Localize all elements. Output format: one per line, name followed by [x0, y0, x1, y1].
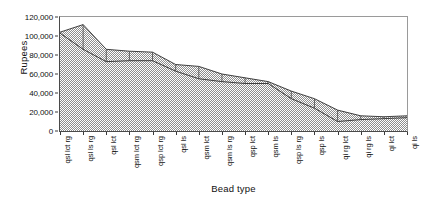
x-axis-category-label: qi ls: [410, 136, 419, 149]
y-axis-tick-label: 80,000: [29, 51, 53, 60]
x-axis-tick-mark: [245, 132, 246, 135]
band-fill-region: [60, 25, 407, 131]
x-axis-category-label: qi rg lct: [341, 136, 350, 160]
x-axis-category-label: qsl ls: [179, 136, 188, 153]
x-axis-category-label: qsp lct rg: [156, 136, 165, 166]
y-axis-tick-label: 60,000: [29, 70, 53, 79]
y-axis-tick-mark: [55, 17, 58, 18]
y-axis-tick-mark: [55, 131, 58, 132]
y-axis-tick-label: 20,000: [29, 108, 53, 117]
x-axis-tick-mark: [268, 132, 269, 135]
x-axis-category-label: qi lct: [387, 136, 396, 151]
x-axis-tick-mark: [222, 132, 223, 135]
x-axis-category-label: qsm lct rg: [132, 136, 141, 168]
x-axis-category-label: qsm ls rg: [225, 136, 234, 166]
y-axis-tick-mark: [55, 93, 58, 94]
plot-area: [59, 16, 408, 132]
x-axis-tick-mark: [361, 132, 362, 135]
x-axis-tick-mark: [106, 132, 107, 135]
y-axis-tick-label: 120,000: [25, 13, 53, 22]
x-axis-category-label: qsl lct: [109, 136, 118, 155]
x-axis-category-label: qsm ls: [271, 136, 280, 157]
x-axis-tick-mark: [129, 132, 130, 135]
x-axis-category-labels: qsl lct rgqsl ls rgqsl lctqsm lct rgqsp …: [59, 136, 408, 182]
y-axis-tick-mark: [55, 112, 58, 113]
x-axis-tick-mark: [153, 132, 154, 135]
x-axis-title: Bead type: [59, 183, 408, 194]
bead-type-rupees-chart: Rupees 120,000100,00080,00060,00040,0002…: [0, 0, 428, 201]
x-axis-category-label: qsm lct: [202, 136, 211, 159]
x-axis-tick-mark: [384, 132, 385, 135]
x-axis-tick-mark: [199, 132, 200, 135]
x-axis-category-label: qsp lct: [248, 136, 257, 157]
x-axis-tick-mark: [291, 132, 292, 135]
x-axis-tick-mark: [407, 132, 408, 135]
y-axis-tick-label: 40,000: [29, 89, 53, 98]
x-axis-tick-mark: [83, 132, 84, 135]
x-axis-category-label: qsp ls: [317, 136, 326, 155]
x-axis-category-label: qsl lct rg: [63, 136, 72, 163]
y-axis-tick-label: 100,000: [25, 32, 53, 41]
x-axis-tick-mark: [314, 132, 315, 135]
y-axis-tick-mark: [55, 36, 58, 37]
x-axis-tick-mark: [338, 132, 339, 135]
x-axis-category-label: qi rg ls: [364, 136, 373, 158]
x-axis-category-label: qsl ls rg: [86, 136, 95, 161]
y-axis-tick-mark: [55, 55, 58, 56]
area-band-plot: [60, 17, 407, 131]
x-axis-tick-mark: [60, 132, 61, 135]
y-axis-tick-label: 0: [49, 127, 53, 136]
x-axis-tick-mark: [176, 132, 177, 135]
y-axis-tick-labels: 120,000100,00080,00060,00040,00020,0000: [0, 0, 58, 201]
x-axis-category-label: qsp ls rg: [294, 136, 303, 164]
y-axis-tick-mark: [55, 74, 58, 75]
